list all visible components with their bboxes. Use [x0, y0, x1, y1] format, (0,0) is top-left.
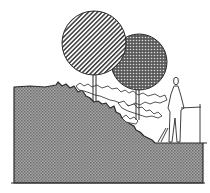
railing: [181, 104, 201, 143]
tree-large-canopy: [62, 11, 126, 75]
person-body: [168, 86, 184, 142]
diagram-svg: [0, 0, 210, 193]
person-figure: [158, 77, 184, 142]
landscape-section-diagram: [0, 0, 210, 193]
person-head: [174, 77, 179, 85]
